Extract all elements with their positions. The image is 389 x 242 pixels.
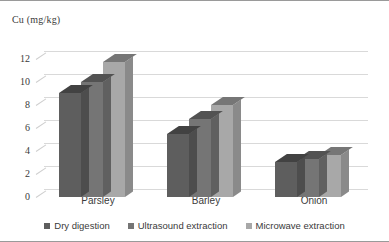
legend-swatch-icon [128, 223, 134, 229]
gridline [44, 51, 368, 52]
legend-label: Ultrasound extraction [138, 220, 228, 231]
bar-side [81, 88, 89, 197]
bar-side [297, 157, 305, 197]
gridline-depth [36, 121, 46, 128]
bar-face [275, 162, 297, 197]
y-axis-tick-label: 12 [6, 53, 30, 64]
legend-item[interactable]: Ultrasound extraction [128, 220, 228, 231]
gridline-depth [36, 168, 46, 175]
chart-container: Cu (mg/kg) 024681012ParsleyBarleyOnion D… [0, 0, 389, 242]
bar-side [103, 76, 111, 197]
legend-item[interactable]: Dry digestion [44, 220, 109, 231]
bar-face [59, 93, 81, 197]
bar-side [233, 99, 241, 197]
legend-item[interactable]: Microwave extraction [246, 220, 345, 231]
plot-area: 024681012ParsleyBarleyOnion [0, 1, 389, 242]
gridline-depth [36, 52, 46, 59]
y-axis-tick-label: 0 [6, 191, 30, 202]
y-axis-tick-label: 4 [6, 145, 30, 156]
y-axis-tick-label: 8 [6, 99, 30, 110]
bar-barley-dry [167, 134, 189, 197]
bar-parsley-dry [59, 93, 81, 197]
gridline-depth [36, 75, 46, 82]
legend-label: Microwave extraction [256, 220, 345, 231]
y-axis-tick-label: 2 [6, 168, 30, 179]
legend-swatch-icon [44, 223, 50, 229]
bar-side [125, 57, 133, 197]
bar-side [341, 150, 349, 197]
chart-legend: Dry digestionUltrasound extractionMicrow… [0, 220, 389, 231]
bar-side [319, 154, 327, 197]
bar-face [167, 134, 189, 197]
legend-swatch-icon [246, 223, 252, 229]
legend-label: Dry digestion [54, 220, 109, 231]
bar-onion-dry [275, 162, 297, 197]
gridline-depth [36, 98, 46, 105]
bar-side [211, 113, 219, 197]
y-axis-tick-label: 6 [6, 122, 30, 133]
y-axis-tick-label: 10 [6, 76, 30, 87]
gridline-depth [36, 144, 46, 151]
bar-side [189, 128, 197, 197]
